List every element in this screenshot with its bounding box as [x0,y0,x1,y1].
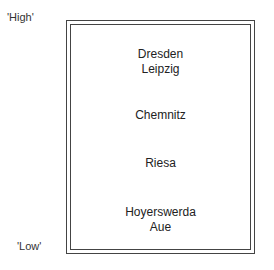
city-dresden: Dresden [70,47,251,62]
high-label: 'High' [7,11,34,23]
city-hoyerswerda: Hoyerswerda [70,205,251,220]
city-leipzig: Leipzig [70,62,251,77]
city-riesa: Riesa [70,156,251,171]
city-aue: Aue [70,220,251,235]
level-2: Chemnitz [70,108,251,123]
city-chemnitz: Chemnitz [70,108,251,123]
level-3: Riesa [70,156,251,171]
level-4: Hoyerswerda Aue [70,205,251,235]
level-1: Dresden Leipzig [70,47,251,77]
low-label: 'Low' [17,240,41,252]
